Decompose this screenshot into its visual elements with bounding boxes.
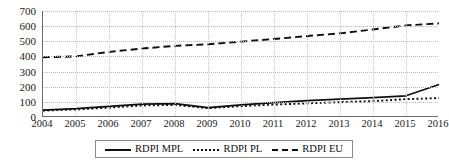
- x-axis: 2004200520062007200820092010201120122013…: [42, 119, 438, 135]
- y-axis-tick-label: 500: [0, 36, 36, 47]
- y-axis-tick-label: 400: [0, 51, 36, 62]
- gridline-vertical: [109, 11, 110, 116]
- gridline-vertical: [142, 11, 143, 116]
- x-axis-tick-label: 2009: [197, 119, 218, 130]
- gridline-vertical: [307, 11, 308, 116]
- solid-line-icon: [105, 145, 131, 154]
- x-axis-tick-label: 2004: [32, 119, 53, 130]
- legend-item-label: RDPI MPL: [135, 144, 183, 155]
- y-axis-tick-label: 200: [0, 81, 36, 92]
- gridline-vertical: [340, 11, 341, 116]
- gridline-vertical: [406, 11, 407, 116]
- y-axis-tick-label: 100: [0, 96, 36, 107]
- x-axis-tick-label: 2006: [98, 119, 119, 130]
- x-axis-tick-label: 2005: [65, 119, 86, 130]
- x-axis-tick-label: 2010: [230, 119, 251, 130]
- x-axis-tick-label: 2012: [296, 119, 317, 130]
- y-axis-tick-label: 700: [0, 6, 36, 17]
- dashed-line-icon: [272, 145, 298, 154]
- x-axis-tick-label: 2014: [362, 119, 383, 130]
- y-axis-tick-label: 600: [0, 21, 36, 32]
- gridline-vertical: [208, 11, 209, 116]
- x-axis-tick-label: 2008: [164, 119, 185, 130]
- gridline-vertical: [241, 11, 242, 116]
- x-axis-tick-label: 2013: [329, 119, 350, 130]
- plot-area: [42, 11, 438, 117]
- dotted-line-icon: [193, 145, 219, 154]
- legend-item[interactable]: RDPI PL: [193, 144, 262, 155]
- gridline-vertical: [373, 11, 374, 116]
- y-axis-tick-label: 300: [0, 66, 36, 77]
- gridline-vertical: [76, 11, 77, 116]
- legend-item-label: RDPI EU: [302, 144, 343, 155]
- chart-legend: RDPI MPLRDPI PLRDPI EU: [95, 140, 353, 158]
- x-axis-tick-label: 2016: [428, 119, 449, 130]
- y-axis: 0100200300400500600700: [0, 11, 38, 117]
- legend-item-label: RDPI PL: [223, 144, 262, 155]
- legend-item[interactable]: RDPI EU: [272, 144, 343, 155]
- gridline-vertical: [274, 11, 275, 116]
- x-axis-tick-label: 2011: [263, 119, 284, 130]
- x-axis-tick-label: 2007: [131, 119, 152, 130]
- gridline-vertical: [175, 11, 176, 116]
- x-axis-tick-label: 2015: [395, 119, 416, 130]
- legend-item[interactable]: RDPI MPL: [105, 144, 183, 155]
